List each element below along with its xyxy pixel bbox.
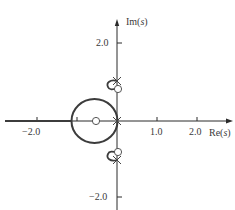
root-locus-plot [0,0,235,210]
zero-marker-icon [114,148,121,155]
zero-marker-icon [114,85,121,92]
xtick-label-2: 2.0 [189,127,202,137]
ytick-label-neg2: −2.0 [89,192,107,202]
imag-axis-label: Im(s) [126,17,148,27]
real-axis-var: s [223,127,227,138]
imag-axis-var: s [140,16,144,27]
real-axis-label-text: Re [209,127,220,138]
real-axis-label: Re(s) [209,128,231,138]
zero-marker-icon [92,117,99,124]
imag-axis-arrow-icon [115,19,119,26]
imag-axis-label-text: Im [126,16,137,27]
ytick-label-2: 2.0 [96,38,109,48]
real-axis-arrow-icon [226,119,233,124]
xtick-label-neg2: −2.0 [22,127,40,137]
xtick-label-1: 1.0 [150,127,163,137]
